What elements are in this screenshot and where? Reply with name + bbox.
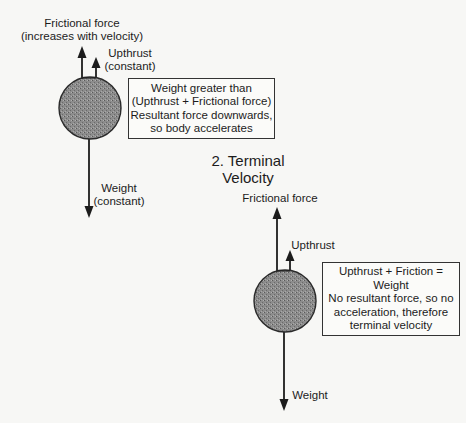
- scene1-box-line3: Resultant force downwards,: [131, 109, 273, 123]
- force-diagram: Frictional force (increases with velocit…: [0, 0, 466, 423]
- scene1-weight-label-line1: Weight: [92, 182, 146, 195]
- scene2-box-line5: terminal velocity: [350, 319, 432, 333]
- scene1-upthrust-label: Upthrust (constant): [100, 47, 160, 73]
- scene1-upthrust-label-line2: (constant): [100, 60, 160, 73]
- scene2-box-line1: Upthrust + Friction =: [339, 265, 443, 279]
- scene1-explanation-box: Weight greater than (Upthrust + Friction…: [128, 78, 275, 139]
- scene2-weight-label: Weight: [290, 389, 330, 402]
- scene2-friction-label-text: Frictional force: [242, 192, 317, 204]
- scene2-upthrust-arrow: [286, 250, 295, 272]
- scene2-upthrust-label: Upthrust: [288, 239, 338, 252]
- scene2-heading: 2. Terminal Velocity: [208, 152, 288, 186]
- scene2-explanation-box: Upthrust + Friction = Weight No resultan…: [322, 262, 460, 336]
- scene1-box-line1: Weight greater than: [151, 82, 252, 96]
- scene1-friction-arrow: [78, 46, 87, 79]
- scene1-friction-label-line2: (increases with velocity): [10, 30, 154, 43]
- scene1-box-line2: (Upthrust + Frictional force): [132, 95, 272, 109]
- scene2-heading-line2: Velocity: [208, 169, 288, 186]
- scene1-friction-label-line1: Frictional force: [10, 17, 154, 30]
- scene1-box-line4: so body accelerates: [150, 122, 252, 136]
- scene1-weight-label: Weight (constant): [92, 182, 146, 208]
- scene2-heading-line1: 2. Terminal: [208, 152, 288, 169]
- scene2-weight-arrow: [280, 332, 289, 411]
- scene2-box-line2: Weight: [373, 279, 409, 293]
- diagram-graphics: [0, 0, 466, 423]
- scene1-weight-label-line2: (constant): [92, 195, 146, 208]
- scene2-upthrust-label-text: Upthrust: [291, 239, 334, 251]
- scene2-graphics: [254, 207, 316, 411]
- scene1-falling-body: [59, 77, 121, 139]
- scene1-upthrust-label-line1: Upthrust: [100, 47, 160, 60]
- scene2-friction-label: Frictional force: [235, 192, 325, 205]
- scene2-weight-label-text: Weight: [292, 389, 328, 401]
- scene2-friction-arrow: [273, 207, 282, 272]
- scene2-falling-body: [254, 270, 316, 332]
- scene2-box-line4: acceleration, therefore: [334, 306, 448, 320]
- scene2-box-line3: No resultant force, so no: [328, 292, 453, 306]
- scene1-friction-label: Frictional force (increases with velocit…: [10, 17, 154, 43]
